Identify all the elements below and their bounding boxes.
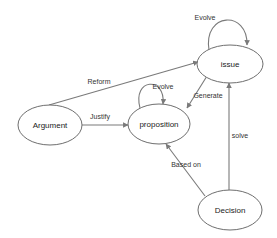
edge-line [166,144,205,196]
edge-label-issue-evolve: Evolve [194,14,215,21]
edge-argument-justify-proposition: Justify [82,113,128,125]
node-label-issue: issue [221,60,240,69]
edge-label-solve: solve [232,132,248,139]
node-label-proposition: proposition [139,120,178,129]
edge-label-justify: Justify [90,113,110,121]
edge-decision-solve-issue: solve [229,83,248,190]
edge-label-generate: Generate [193,92,222,99]
edge-argument-reform-issue: Reform [49,62,198,105]
node-label-decision: Decision [215,206,246,215]
edge-label-reform: Reform [88,78,111,85]
node-argument: Argument [18,105,82,145]
diagram-canvas: Evolve Reform Evolve Generate Justify so… [0,0,277,238]
edge-decision-basedon-proposition: Based on [166,144,205,196]
edge-issue-evolve: Evolve [194,14,247,50]
node-proposition: proposition [128,104,190,144]
edge-line [49,62,198,105]
edge-label-proposition-evolve: Evolve [152,83,173,90]
node-issue: issue [197,45,263,83]
node-label-argument: Argument [33,121,68,130]
edge-label-based-on: Based on [171,161,201,168]
node-decision: Decision [198,190,262,230]
